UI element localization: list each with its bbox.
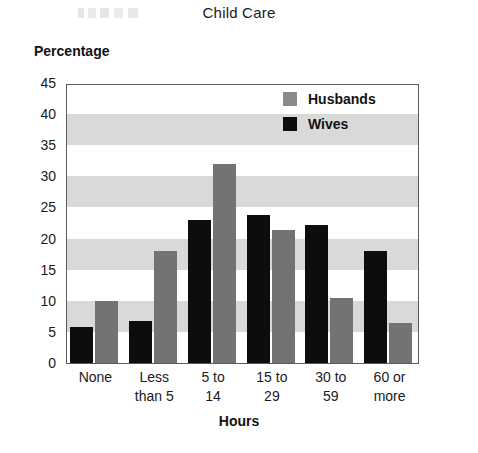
y-tick-label: 20 [22, 231, 56, 247]
y-tick-label: 30 [22, 168, 56, 184]
chart-title: Child Care [0, 4, 478, 21]
plot-area: Husbands Wives [66, 84, 419, 364]
y-tick-label: 35 [22, 137, 56, 153]
y-tick-label: 5 [22, 324, 56, 340]
bar-group [67, 85, 126, 363]
y-tick-label: 0 [22, 355, 56, 371]
y-tick-label: 10 [22, 293, 56, 309]
bar-wives [129, 321, 152, 363]
bar-husbands [389, 323, 412, 363]
legend-swatch-husbands-icon [283, 92, 297, 106]
bar-husbands [213, 164, 236, 363]
bar-wives [188, 220, 211, 363]
bar-husbands [330, 298, 353, 363]
y-tick-label: 15 [22, 262, 56, 278]
x-tick-label: 60 ormore [354, 368, 426, 406]
bar-husbands [272, 230, 295, 363]
y-tick-label: 45 [22, 75, 56, 91]
legend-label-husbands: Husbands [308, 91, 376, 107]
x-axis-title: Hours [0, 413, 478, 429]
chart-legend: Husbands Wives [283, 91, 376, 141]
y-tick-label: 40 [22, 106, 56, 122]
legend-item-husbands: Husbands [283, 91, 376, 107]
bar-group [126, 85, 185, 363]
legend-label-wives: Wives [308, 116, 348, 132]
bar-husbands [154, 251, 177, 363]
legend-item-wives: Wives [283, 116, 376, 132]
bar-wives [364, 251, 387, 363]
y-axis-title: Percentage [34, 43, 109, 59]
legend-swatch-wives-icon [283, 117, 297, 131]
bar-wives [247, 215, 270, 363]
bar-husbands [95, 301, 118, 363]
bar-wives [70, 327, 93, 363]
x-tick-label-line: more [354, 387, 426, 406]
x-tick-label-line: 60 or [354, 368, 426, 387]
y-tick-label: 25 [22, 199, 56, 215]
bar-group [185, 85, 244, 363]
bar-wives [305, 225, 328, 363]
